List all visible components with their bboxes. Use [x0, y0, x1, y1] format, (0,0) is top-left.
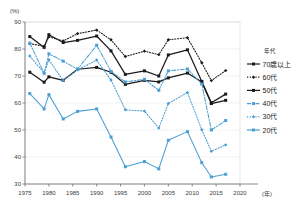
- data-point: [210, 129, 213, 132]
- x-tick-label: 2020: [233, 190, 247, 196]
- chart-page: 90807060504030 1975198019851990199520002…: [0, 0, 299, 213]
- data-point: [43, 46, 46, 49]
- data-point: [28, 35, 31, 38]
- x-tick-label: 2015: [209, 190, 223, 196]
- data-point: [95, 66, 98, 69]
- data-point: [186, 48, 189, 51]
- data-point: [224, 119, 227, 122]
- data-point: [47, 75, 50, 78]
- legend-item-label: 60代: [263, 73, 278, 82]
- legend-item-label: 70歳以上: [263, 60, 292, 68]
- data-point: [200, 161, 203, 164]
- data-point: [110, 70, 113, 73]
- data-point: [167, 139, 170, 142]
- data-point: [186, 72, 189, 75]
- data-point: [124, 165, 127, 168]
- x-tick-label: 1995: [114, 190, 128, 196]
- data-point: [143, 160, 146, 163]
- y-tick-label: 40: [14, 154, 21, 160]
- data-point: [186, 67, 189, 70]
- x-tick-label: 2005: [162, 190, 176, 196]
- x-tick-label: 1985: [66, 190, 80, 196]
- y-tick-label: 90: [14, 19, 21, 25]
- data-point: [167, 53, 170, 56]
- data-point: [47, 52, 50, 55]
- x-tick-label: 1975: [18, 190, 32, 196]
- legend-item-label: 30代: [263, 112, 278, 121]
- legend-swatch-marker: [252, 102, 255, 105]
- y-tick-label: 70: [14, 73, 21, 79]
- data-point: [62, 60, 65, 63]
- legend-item-label: 20代: [263, 126, 278, 135]
- voter-turnout-line-chart: 90807060504030 1975198019851990199520002…: [0, 0, 299, 213]
- data-point: [110, 136, 113, 139]
- legend-swatch-marker: [252, 63, 255, 66]
- data-point: [47, 93, 50, 96]
- data-point: [95, 44, 98, 47]
- data-point: [224, 93, 227, 96]
- data-point: [47, 33, 50, 36]
- data-point: [110, 49, 113, 52]
- data-point: [43, 107, 46, 110]
- y-tick-label: 50: [14, 127, 21, 133]
- data-point: [224, 99, 227, 102]
- legend-swatch-marker: [252, 129, 255, 132]
- data-point: [200, 83, 203, 86]
- data-point: [210, 175, 213, 178]
- data-point: [157, 167, 160, 170]
- data-point: [76, 110, 79, 113]
- data-point: [28, 71, 31, 74]
- data-point: [43, 81, 46, 84]
- x-axis-unit-label: (年): [262, 190, 272, 198]
- data-point: [224, 173, 227, 176]
- data-point: [186, 130, 189, 133]
- y-tick-label: 60: [14, 100, 21, 106]
- legend-swatch-marker: [252, 89, 255, 92]
- legend-item-label: 40代: [263, 99, 278, 108]
- data-point: [62, 41, 65, 44]
- legend-item-label: 50代: [263, 86, 278, 95]
- y-axis-unit-label: (%): [10, 8, 19, 14]
- data-point: [210, 101, 213, 104]
- data-point: [157, 80, 160, 83]
- data-point: [143, 78, 146, 81]
- x-tick-label: 2000: [138, 190, 152, 196]
- data-point: [124, 73, 127, 76]
- data-point: [76, 39, 79, 42]
- data-point: [62, 117, 65, 120]
- data-point: [157, 89, 160, 92]
- data-point: [167, 69, 170, 72]
- x-tick-label: 1980: [42, 190, 56, 196]
- data-point: [124, 80, 127, 83]
- legend-title: 年代: [264, 47, 276, 55]
- data-point: [157, 75, 160, 78]
- x-tick-label: 1990: [90, 190, 104, 196]
- data-point: [95, 35, 98, 38]
- data-point: [143, 69, 146, 72]
- x-tick-label: 2010: [186, 190, 200, 196]
- data-point: [28, 42, 31, 45]
- y-tick-label: 80: [14, 46, 21, 52]
- data-point: [28, 92, 31, 95]
- y-tick-label: 30: [14, 181, 21, 187]
- data-point: [95, 107, 98, 110]
- data-point: [167, 76, 170, 79]
